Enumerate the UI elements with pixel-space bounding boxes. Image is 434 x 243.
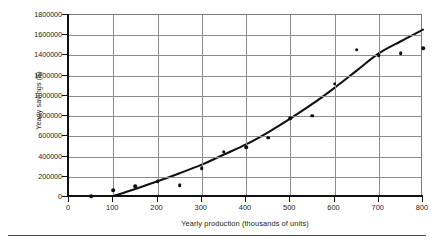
y-axis-tick bbox=[62, 156, 67, 157]
scatter-point bbox=[288, 116, 292, 120]
x-axis-tick-label: 0 bbox=[66, 203, 70, 212]
y-axis-tick bbox=[62, 196, 67, 197]
x-axis-tick bbox=[157, 197, 158, 202]
x-axis-tick-label: 200 bbox=[150, 203, 162, 212]
plot-area bbox=[68, 14, 422, 196]
gridline-vertical bbox=[113, 15, 114, 195]
y-axis-tick bbox=[62, 95, 67, 96]
x-axis-tick-label: 100 bbox=[106, 203, 118, 212]
scatter-point bbox=[178, 184, 182, 188]
gridline-vertical bbox=[290, 15, 291, 195]
x-axis-tick-label: 600 bbox=[327, 203, 339, 212]
x-axis-tick-label: 500 bbox=[283, 203, 295, 212]
scatter-point bbox=[111, 189, 115, 193]
x-axis-title: Yearly production (thousands of units) bbox=[68, 219, 422, 228]
gridline-vertical bbox=[379, 15, 380, 195]
gridline-vertical bbox=[158, 15, 159, 195]
scatter-point bbox=[311, 114, 315, 118]
gridline-horizontal bbox=[69, 96, 421, 97]
gridline-horizontal bbox=[69, 76, 421, 77]
gridline-horizontal bbox=[69, 35, 421, 36]
y-axis-tick-label: 0 bbox=[58, 192, 62, 201]
scatter-point bbox=[156, 180, 160, 184]
gridline-horizontal bbox=[69, 116, 421, 117]
y-axis-tick bbox=[62, 176, 67, 177]
scatter-point bbox=[244, 146, 248, 150]
gridline-horizontal bbox=[69, 136, 421, 137]
chart-figure: Yearly savings ($) Yearly production (th… bbox=[0, 0, 434, 243]
y-axis-tick bbox=[62, 135, 67, 136]
x-axis-tick bbox=[289, 197, 290, 202]
x-axis-tick bbox=[112, 197, 113, 202]
scatter-point bbox=[266, 136, 270, 140]
x-axis-tick bbox=[378, 197, 379, 202]
y-axis-tick-label: 1000000 bbox=[34, 91, 62, 100]
gridline-horizontal bbox=[69, 157, 421, 158]
x-axis-tick-label: 300 bbox=[195, 203, 207, 212]
x-axis-tick-label: 400 bbox=[239, 203, 251, 212]
gridline-vertical bbox=[335, 15, 336, 195]
y-axis-tick-label: 800000 bbox=[38, 111, 62, 120]
scatter-point bbox=[377, 53, 381, 57]
scatter-point bbox=[421, 47, 425, 51]
x-axis-tick bbox=[68, 197, 69, 202]
gridline-horizontal bbox=[69, 177, 421, 178]
x-axis-tick-label: 800 bbox=[416, 203, 428, 212]
y-axis-tick-label: 400000 bbox=[38, 152, 62, 161]
scatter-point bbox=[355, 48, 359, 52]
x-axis-tick bbox=[245, 197, 246, 202]
scatter-point bbox=[333, 82, 337, 86]
footer-rule bbox=[8, 235, 426, 236]
y-axis-tick-label: 1200000 bbox=[34, 71, 62, 80]
y-axis-tick-label: 200000 bbox=[38, 172, 62, 181]
y-axis-tick-label: 1800000 bbox=[34, 10, 62, 19]
y-axis-tick bbox=[62, 14, 67, 15]
gridline-vertical bbox=[246, 15, 247, 195]
scatter-point bbox=[399, 51, 403, 55]
gridline-horizontal bbox=[69, 55, 421, 56]
x-axis-tick bbox=[422, 197, 423, 202]
scatter-point bbox=[200, 166, 204, 170]
x-axis-tick bbox=[334, 197, 335, 202]
y-axis-tick-label: 600000 bbox=[38, 131, 62, 140]
y-axis-tick-label: 1600000 bbox=[34, 30, 62, 39]
y-axis-tick-label: 1400000 bbox=[34, 50, 62, 59]
y-axis-tick bbox=[62, 75, 67, 76]
x-axis-tick-label: 700 bbox=[372, 203, 384, 212]
y-axis-tick bbox=[62, 115, 67, 116]
scatter-point bbox=[222, 150, 226, 154]
y-axis-tick bbox=[62, 34, 67, 35]
y-axis-spine bbox=[67, 14, 69, 197]
y-axis-tick bbox=[62, 54, 67, 55]
x-axis-tick bbox=[201, 197, 202, 202]
scatter-point bbox=[134, 185, 138, 189]
